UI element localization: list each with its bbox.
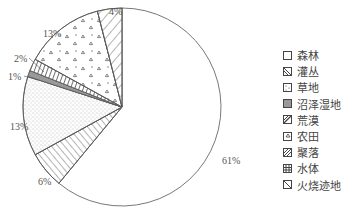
- label-wetland: 1%: [8, 71, 21, 82]
- swatch-blank-icon: [283, 51, 292, 60]
- label-shrub: 6%: [38, 176, 51, 187]
- swatch-hatch-icon: [283, 67, 292, 76]
- swatch-wide-hatch-icon: [283, 180, 292, 189]
- label-farm: 13%: [43, 28, 61, 39]
- legend-item-burn: 火烧迹地: [283, 177, 341, 193]
- legend-item-wetland: 沼泽湿地: [283, 96, 341, 112]
- label-forest: 61%: [222, 155, 240, 166]
- label-burn: 4%: [109, 6, 122, 17]
- legend-item-shrub: 灌丛: [283, 63, 341, 79]
- swatch-slash-icon: [283, 115, 292, 124]
- label-grass: 13%: [10, 121, 28, 132]
- swatch-grid-icon: [283, 164, 292, 173]
- legend-item-settlement: 聚落: [283, 144, 341, 160]
- swatch-triangle-icon: [283, 132, 292, 141]
- legend: 森林 灌丛 草地 沼泽湿地 荒漠 农田 聚落 水体 火烧迹地: [283, 47, 341, 193]
- legend-item-water: 水体: [283, 160, 341, 176]
- swatch-dots-icon: [283, 83, 292, 92]
- swatch-crosshatch-icon: [283, 148, 292, 157]
- legend-item-grass: 草地: [283, 79, 341, 95]
- legend-item-farm: 农田: [283, 128, 341, 144]
- swatch-gray-icon: [283, 99, 292, 108]
- legend-item-forest: 森林: [283, 47, 341, 63]
- label-desert: 2%: [14, 53, 27, 64]
- legend-item-desert: 荒漠: [283, 112, 341, 128]
